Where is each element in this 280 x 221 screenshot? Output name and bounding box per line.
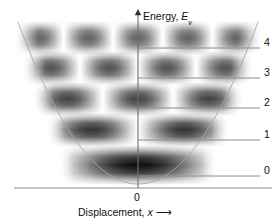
x-axis-title: Displacement, x ⟶ <box>78 207 171 218</box>
origin-label: 0 <box>134 192 140 203</box>
level-number-label-v2: 2 <box>264 97 270 108</box>
level-number-label-v0: 0 <box>264 165 270 176</box>
harmonic-oscillator-figure: Energy, Ev 0 Displacement, x ⟶ 43210 <box>0 0 280 221</box>
y-axis-arrow-icon <box>135 9 141 15</box>
y-axis-title: Energy, Ev <box>143 11 192 22</box>
level-number-label-v1: 1 <box>264 129 270 140</box>
right-arrow-icon: ⟶ <box>156 206 171 218</box>
y-axis-subscript: v <box>188 18 192 27</box>
x-axis-symbol: x <box>147 206 152 218</box>
y-axis-title-text: Energy, <box>143 10 178 22</box>
level-number-label-v4: 4 <box>264 37 270 48</box>
level-number-label-v3: 3 <box>264 67 270 78</box>
figure-canvas <box>0 0 280 221</box>
x-axis-title-text: Displacement, <box>78 206 145 218</box>
